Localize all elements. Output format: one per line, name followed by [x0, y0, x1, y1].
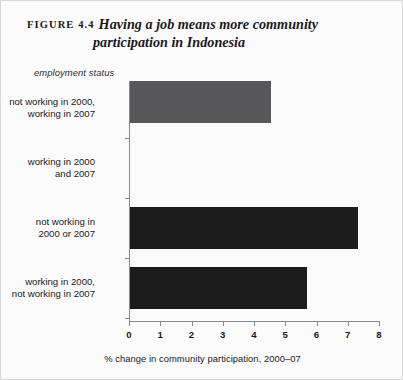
x-axis-tick — [129, 321, 130, 326]
category-label-0: not working in 2000, working in 2007 — [0, 96, 95, 121]
y-axis-title: employment status — [34, 67, 114, 78]
x-axis-tick-label: 0 — [119, 329, 139, 340]
category-label-line: 2000 or 2007 — [38, 228, 95, 239]
category-label-line: not working in — [36, 216, 95, 227]
category-label-line: and 2007 — [55, 168, 95, 179]
bar-not-working-2000-working-2007[interactable] — [130, 207, 358, 249]
x-axis-tick — [285, 321, 286, 326]
category-label-1: working in 2000 and 2007 — [0, 156, 95, 181]
y-axis-tick — [125, 258, 130, 259]
x-axis-tick-label: 7 — [338, 329, 358, 340]
bar-row — [130, 81, 205, 123]
y-axis-tick — [125, 318, 130, 319]
x-axis-tick — [160, 321, 161, 326]
y-axis-tick — [125, 198, 130, 199]
bar-row — [130, 207, 358, 249]
category-label-line: working in 2000 — [28, 156, 95, 167]
x-axis-tick-label: 1 — [150, 329, 170, 340]
bar-row — [130, 267, 307, 309]
y-axis-tick — [125, 138, 130, 139]
plot-area: not working in 2000, working in 2007 wor… — [129, 81, 379, 321]
x-axis-title: % change in community participation, 200… — [1, 353, 403, 364]
category-label-2: not working in 2000 or 2007 — [0, 216, 95, 241]
x-axis-tick-label: 4 — [244, 329, 264, 340]
x-axis-tick-label: 3 — [213, 329, 233, 340]
x-axis-tick — [317, 321, 318, 326]
figure-container: FIGURE 4.4 Having a job means more commu… — [0, 0, 403, 380]
figure-number-label: FIGURE 4.4 — [27, 19, 95, 30]
figure-title-text-line-2: participation in Indonesia — [93, 34, 377, 51]
x-axis-tick — [254, 321, 255, 326]
category-label-line: not working in 2000, — [9, 96, 95, 107]
figure-title-text-line-1: Having a job means more community — [99, 16, 319, 32]
x-axis-tick-label: 8 — [369, 329, 389, 340]
category-label-line: working in 2000, — [25, 276, 95, 287]
x-axis-tick — [223, 321, 224, 326]
category-label-line: not working in 2007 — [12, 288, 95, 299]
category-label-3: working in 2000, not working in 2007 — [0, 276, 95, 301]
figure-title-block: FIGURE 4.4 Having a job means more commu… — [27, 15, 377, 51]
x-axis-tick-label: 5 — [275, 329, 295, 340]
x-axis-tick-label: 2 — [182, 329, 202, 340]
bar-working-2000-and-2007[interactable] — [130, 267, 307, 309]
figure-title-line-1: FIGURE 4.4 Having a job means more commu… — [27, 15, 377, 33]
category-label-line: working in 2007 — [28, 108, 95, 119]
x-axis-tick — [379, 321, 380, 326]
bar-working-2000-not-working-2007[interactable] — [130, 81, 205, 123]
x-axis-tick-label: 6 — [307, 329, 327, 340]
x-axis-tick — [348, 321, 349, 326]
x-axis-tick — [192, 321, 193, 326]
